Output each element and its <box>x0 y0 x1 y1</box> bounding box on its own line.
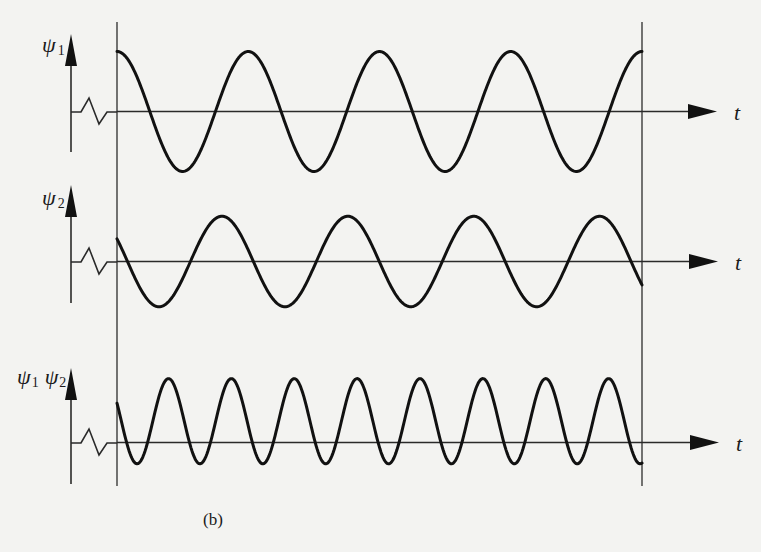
psi1-label: ψ1 <box>42 32 65 58</box>
panel-psi2: t ψ2 <box>42 185 742 307</box>
psi1-time-axis-label: t <box>734 100 741 125</box>
psi2-y-axis-arrow-icon <box>65 185 77 217</box>
product-label: ψ1ψ2 <box>17 364 66 390</box>
psi1-axis-break <box>71 98 117 124</box>
psi2-time-axis-arrow-icon <box>689 254 718 269</box>
psi1-time-axis-arrow-icon <box>688 104 717 119</box>
figure-caption: (b) <box>203 510 223 529</box>
panel-product: t ψ1ψ2 <box>17 364 743 484</box>
wave-product-diagram: t ψ1 t ψ2 t ψ1ψ2 (b) <box>0 0 761 552</box>
product-wave <box>117 379 642 464</box>
product-y-axis-arrow-icon <box>65 368 77 400</box>
panel-psi1: t ψ1 <box>42 32 741 172</box>
product-time-axis-arrow-icon <box>690 435 719 450</box>
psi2-label: ψ2 <box>42 185 65 211</box>
psi2-time-axis-label: t <box>735 250 742 275</box>
psi2-axis-break <box>71 248 117 274</box>
product-time-axis-label: t <box>736 431 743 456</box>
psi1-y-axis-arrow-icon <box>65 34 77 66</box>
product-axis-break <box>71 429 117 455</box>
